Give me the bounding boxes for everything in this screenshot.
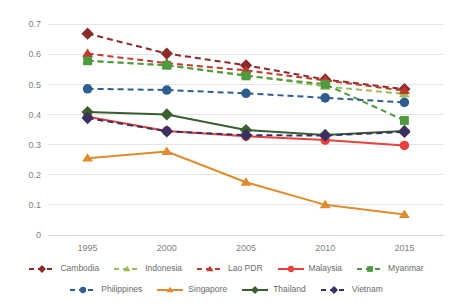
data-point-marker xyxy=(400,141,410,151)
data-point-marker xyxy=(287,265,293,271)
data-point-marker xyxy=(162,61,171,70)
legend-label: Indonesia xyxy=(145,264,182,273)
data-point-marker xyxy=(161,125,173,137)
data-point-marker xyxy=(80,286,86,292)
legend-item-indonesia[interactable]: Indonesia xyxy=(113,263,182,275)
legend-item-lao-pdr[interactable]: Lao PDR xyxy=(196,263,263,275)
data-point-marker xyxy=(398,126,410,138)
x-axis-ticks: 19952000200520102015 xyxy=(78,243,415,252)
data-point-marker xyxy=(161,47,173,59)
y-axis-tick-label: 0.5 xyxy=(28,80,41,90)
data-point-marker xyxy=(330,285,338,293)
legend-item-cambodia[interactable]: Cambodia xyxy=(28,263,99,275)
data-point-marker xyxy=(321,80,330,89)
legend-label: Cambodia xyxy=(60,264,99,273)
y-axis-tick-label: 0.6 xyxy=(28,49,41,59)
data-point-marker xyxy=(367,266,373,272)
legend-item-singapore[interactable]: Singapore xyxy=(156,284,227,296)
x-axis-tick-label: 1995 xyxy=(78,243,98,252)
legend-item-malaysia[interactable]: Malaysia xyxy=(277,263,343,275)
legend-swatch-icon xyxy=(69,284,97,296)
legend-label: Philippines xyxy=(101,285,142,294)
legend-item-philippines[interactable]: Philippines xyxy=(69,284,142,296)
legend-item-myanmar[interactable]: Myanmar xyxy=(356,263,423,275)
legend-label: Lao PDR xyxy=(228,264,263,273)
data-point-marker xyxy=(161,147,172,155)
y-axis-tick-label: 0.4 xyxy=(28,110,41,120)
legend-label: Myanmar xyxy=(388,264,423,273)
legend-swatch-icon xyxy=(156,284,184,296)
legend-swatch-icon xyxy=(241,284,269,296)
series-lao-pdr xyxy=(82,49,410,94)
x-axis-tick-label: 2000 xyxy=(157,243,177,252)
legend-label: Singapore xyxy=(188,285,227,294)
x-axis-tick-label: 2015 xyxy=(394,243,414,252)
x-axis-tick-label: 2005 xyxy=(236,243,256,252)
legend-item-vietnam[interactable]: Vietnam xyxy=(320,284,383,296)
line-chart: 00.10.20.30.40.50.60.7 19952000200520102… xyxy=(0,0,452,308)
y-axis-tick-label: 0.7 xyxy=(28,19,41,29)
series-layer xyxy=(81,28,410,218)
y-axis-tick-label: 0.3 xyxy=(28,140,41,150)
legend-row-2: PhilippinesSingaporeThailandVietnam xyxy=(0,279,452,300)
data-point-marker xyxy=(400,98,410,108)
data-point-marker xyxy=(38,264,46,272)
series-singapore xyxy=(82,147,410,218)
data-point-marker xyxy=(241,89,251,99)
data-point-marker xyxy=(400,116,409,125)
data-point-marker xyxy=(83,84,93,94)
data-point-marker xyxy=(320,93,330,103)
legend-item-thailand[interactable]: Thailand xyxy=(241,284,306,296)
y-axis-ticks: 00.10.20.30.40.50.60.7 xyxy=(28,19,41,240)
y-axis-tick-label: 0.1 xyxy=(28,200,41,210)
data-point-marker xyxy=(162,85,172,95)
chart-legend: CambodiaIndonesiaLao PDRMalaysiaMyanmar … xyxy=(0,254,452,308)
legend-label: Vietnam xyxy=(352,285,383,294)
data-point-marker xyxy=(82,49,93,57)
legend-swatch-icon xyxy=(356,263,384,275)
data-point-marker xyxy=(83,56,92,65)
plot-area: 00.10.20.30.40.50.60.7 19952000200520102… xyxy=(0,0,452,252)
data-point-marker xyxy=(81,28,93,40)
legend-row-1: CambodiaIndonesiaLao PDRMalaysiaMyanmar xyxy=(0,258,452,279)
y-axis-tick-label: 0.2 xyxy=(28,170,41,180)
x-axis-tick-label: 2010 xyxy=(315,243,335,252)
legend-label: Malaysia xyxy=(309,264,343,273)
data-point-marker xyxy=(242,71,251,80)
data-point-marker xyxy=(251,285,259,293)
legend-swatch-icon xyxy=(277,263,305,275)
legend-swatch-icon xyxy=(196,263,224,275)
legend-swatch-icon xyxy=(28,263,56,275)
legend-swatch-icon xyxy=(320,284,348,296)
legend-label: Thailand xyxy=(273,285,306,294)
series-philippines xyxy=(83,84,409,107)
y-axis-tick-label: 0 xyxy=(36,230,41,240)
legend-swatch-icon xyxy=(113,263,141,275)
data-point-marker xyxy=(161,108,173,120)
chart-canvas: 00.10.20.30.40.50.60.7 19952000200520102… xyxy=(0,0,452,252)
